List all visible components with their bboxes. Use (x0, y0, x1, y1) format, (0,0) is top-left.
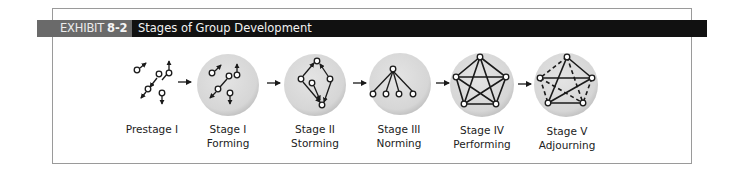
stage-2-diagram (284, 54, 346, 116)
stage-label-5: Stage V Adjourning (522, 124, 612, 152)
stage-phase: Adjourning (522, 138, 612, 152)
stage-label-2: Stage II Storming (270, 122, 360, 150)
stage-name: Stage V (522, 124, 612, 138)
stage-diagram (0, 0, 744, 178)
stage-label-1: Stage I Forming (183, 122, 273, 150)
prestage-diagram (134, 61, 172, 104)
stage-phase: Forming (183, 136, 273, 150)
stage-phase: Storming (270, 136, 360, 150)
stage-3-diagram (369, 53, 431, 115)
stage-label-3: Stage III Norming (354, 122, 444, 150)
stage-4-diagram (450, 53, 514, 117)
stage-1-diagram (197, 54, 259, 116)
stage-name: Stage I (183, 122, 273, 136)
stage-name: Stage II (270, 122, 360, 136)
stage-label-4: Stage IV Performing (437, 123, 527, 151)
stage-name: Stage IV (437, 123, 527, 137)
stage-5-diagram (534, 53, 598, 117)
stage-name: Stage III (354, 122, 444, 136)
stage-phase: Performing (437, 137, 527, 151)
stage-phase: Norming (354, 136, 444, 150)
